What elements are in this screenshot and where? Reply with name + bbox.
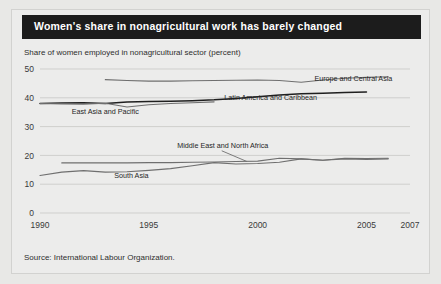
- chart-source-note: Source: International Labour Organizatio…: [24, 253, 175, 262]
- y-axis-tick-label: 50: [25, 64, 35, 74]
- x-axis-tick-label: 1995: [139, 220, 158, 230]
- leader-line-middle-east: [222, 151, 247, 162]
- x-axis-tick-label: 2000: [248, 220, 267, 230]
- x-axis-tick-label: 1990: [31, 220, 50, 230]
- series-label-middle-east-and-north-africa: Middle East and North Africa: [177, 141, 268, 150]
- y-axis-tick-label: 10: [25, 179, 35, 189]
- series-label-south-asia: South Asia: [114, 171, 148, 180]
- figure-panel: Women's share in nonagricultural work ha…: [11, 9, 430, 274]
- series-label-europe-and-central-asia: Europe and Central Asia: [314, 74, 392, 83]
- y-axis-tick-label: 0: [29, 208, 34, 218]
- series-label-east-asia-and-pacific: East Asia and Pacific: [72, 107, 140, 116]
- line-chart-plot: 0102030405019901995200020052007Europe an…: [12, 10, 431, 275]
- y-axis-tick-label: 30: [25, 122, 35, 132]
- y-axis-tick-label: 20: [25, 151, 35, 161]
- y-axis-tick-label: 40: [25, 93, 35, 103]
- series-line-south-asia: [40, 158, 388, 175]
- x-axis-tick-label: 2007: [401, 220, 420, 230]
- series-label-latin-america-and-caribbean: Latin America and Caribbean: [224, 93, 317, 102]
- x-axis-tick-label: 2005: [357, 220, 376, 230]
